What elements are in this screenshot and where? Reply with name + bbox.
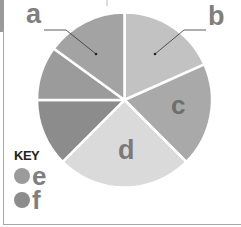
slice-label-d: d xyxy=(118,137,135,164)
legend-label-f: f xyxy=(32,187,41,213)
slice-label-a: a xyxy=(26,1,41,28)
legend-item-f: f xyxy=(14,189,41,211)
slice-label-b: b xyxy=(208,3,225,30)
legend-swatch-f xyxy=(14,192,30,208)
legend-item-e: e xyxy=(14,165,46,187)
slice-label-c: c xyxy=(171,92,185,118)
legend-swatch-e xyxy=(14,168,30,184)
